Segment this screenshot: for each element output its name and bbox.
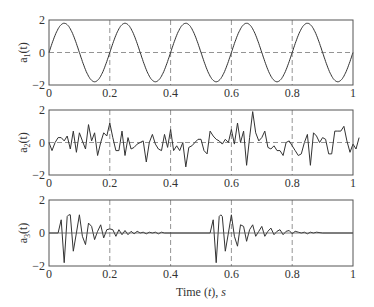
x-tick-label: 0.4 [163, 176, 178, 190]
y-tick-label: 0 [39, 46, 45, 60]
series-line-a3 [49, 215, 353, 263]
y-axis-label: a3(t) [16, 223, 32, 244]
y-tick-label: −2 [32, 168, 45, 182]
series-line-a2 [49, 112, 359, 167]
subplot-a1: 20−200.20.40.60.81a1(t) [16, 13, 356, 100]
x-tick-label: 0.4 [163, 267, 178, 281]
x-tick-label: 0.2 [102, 176, 117, 190]
y-tick-label: 2 [39, 13, 45, 27]
subplot-a2: 20−200.20.40.60.81a2(t) [16, 103, 359, 190]
y-tick-label: −2 [32, 78, 45, 92]
y-tick-label: 2 [39, 193, 45, 207]
y-axis-label: a1(t) [16, 42, 32, 63]
x-tick-label: 1 [350, 267, 356, 281]
x-tick-label: 0.8 [285, 86, 300, 100]
x-tick-label: 0.8 [285, 176, 300, 190]
x-axis-label: Time (t), s [176, 285, 226, 299]
x-tick-label: 1 [350, 176, 356, 190]
x-tick-label: 0.4 [163, 86, 178, 100]
x-tick-label: 0.8 [285, 267, 300, 281]
y-axis-label: a2(t) [16, 132, 32, 153]
x-tick-label: 0.2 [102, 267, 117, 281]
y-tick-label: 2 [39, 103, 45, 117]
x-tick-label: 0.6 [224, 176, 239, 190]
x-tick-label: 1 [350, 86, 356, 100]
x-tick-label: 0 [46, 176, 52, 190]
y-tick-label: 0 [39, 136, 45, 150]
y-tick-label: 0 [39, 226, 45, 240]
x-tick-label: 0.6 [224, 267, 239, 281]
x-tick-label: 0 [46, 267, 52, 281]
subplot-a3: 20−200.20.40.60.81a3(t) [16, 193, 356, 281]
x-tick-label: 0.6 [224, 86, 239, 100]
figure: 20−200.20.40.60.81a1(t) 20−200.20.40.60.… [0, 0, 374, 307]
y-tick-label: −2 [32, 259, 45, 273]
x-tick-label: 0.2 [102, 86, 117, 100]
x-tick-label: 0 [46, 86, 52, 100]
